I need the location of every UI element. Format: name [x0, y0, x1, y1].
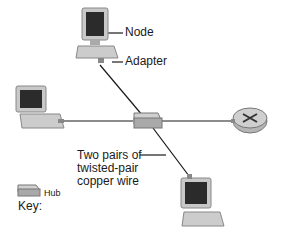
- hub-icon: [134, 113, 162, 128]
- computer-bottom-icon: [181, 174, 224, 226]
- adapter-label: Adapter: [125, 55, 167, 68]
- key-hub-icon: [18, 185, 40, 196]
- key-title: Key:: [18, 200, 42, 213]
- link-bottom-node: [153, 128, 189, 176]
- wire-label-line3: copper wire: [77, 175, 139, 188]
- router-icon: [231, 108, 267, 133]
- key-hub-label: Hub: [44, 187, 61, 200]
- node-label: Node: [125, 26, 154, 39]
- computer-left-icon: [16, 86, 64, 128]
- computer-top-icon: [76, 8, 118, 63]
